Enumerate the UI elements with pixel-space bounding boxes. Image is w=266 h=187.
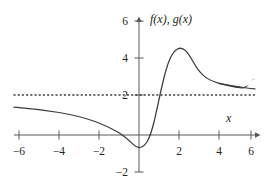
x-tick-label-4: 4: [216, 145, 222, 157]
y-tick-label-2: 2: [122, 89, 128, 101]
x-tick-label-2: 2: [176, 145, 182, 157]
y-tick-label-6: 6: [122, 15, 128, 27]
function-curve-f-tail: [241, 80, 256, 87]
x-axis-label: x: [225, 111, 232, 125]
curve-label: f(x), g(x): [150, 12, 192, 26]
x-tick-label--2: −2: [93, 145, 105, 157]
x-tick-label--6: −6: [13, 145, 25, 157]
function-graph: −6 −4 −2 2 4 6 6 4 2 −2 f(x), g(x) x: [0, 0, 266, 187]
x-tick-label-6: 6: [248, 145, 254, 157]
y-tick-label-4: 4: [122, 52, 128, 64]
x-tick-label--4: −4: [53, 145, 65, 157]
x-axis-arrow-icon: [255, 132, 261, 138]
y-tick-label--2: −2: [116, 166, 128, 178]
figure-container: −6 −4 −2 2 4 6 6 4 2 −2 f(x), g(x) x: [0, 0, 266, 187]
